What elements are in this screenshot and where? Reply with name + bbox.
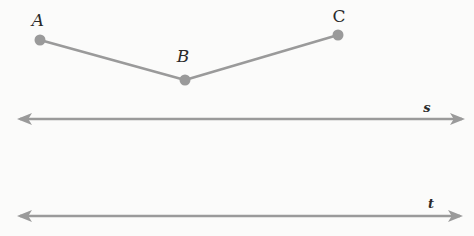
point-c bbox=[333, 30, 344, 41]
segment-bc bbox=[185, 35, 338, 80]
geometry-diagram: A B C s t bbox=[0, 0, 474, 236]
label-point-a: A bbox=[32, 12, 44, 29]
label-line-s: s bbox=[423, 101, 430, 114]
point-a bbox=[35, 35, 46, 46]
label-line-t: t bbox=[428, 197, 434, 210]
segment-ab bbox=[40, 40, 185, 80]
label-point-b: B bbox=[177, 48, 190, 65]
diagram-svg bbox=[0, 0, 474, 236]
point-b bbox=[180, 75, 191, 86]
label-point-c: C bbox=[332, 8, 345, 25]
